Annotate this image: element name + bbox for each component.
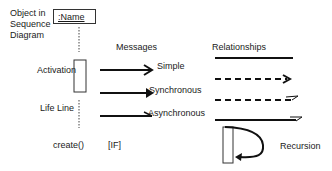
relationship-solid-half-arrow [215,117,302,121]
asynchronous-message-label: Asynchronous [148,108,205,119]
object-label-line3: Diagram [10,30,44,41]
synchronous-message-label: Synchronous [149,85,202,96]
object-label-line1: Object in [10,8,46,19]
relationship-dashed-half-arrow [215,96,298,100]
object-name-box: :Name [53,9,96,24]
activation-label: Activation [37,65,76,76]
simple-message-arrow [100,65,152,75]
recursion-label: Recursion [280,141,321,152]
asynchronous-message-arrow [100,112,152,116]
object-name: :Name [58,12,85,22]
lifeline-label: Life Line [40,103,74,114]
recursion-symbol [223,127,263,163]
relationships-heading: Relationships [212,42,266,53]
create-label: create() [53,140,84,151]
simple-message-label: Simple [157,61,185,72]
relationship-dashed-open-arrow [215,75,290,83]
condition-label: [IF] [108,140,121,151]
object-label-line2: Sequence [10,19,51,30]
messages-heading: Messages [116,42,157,53]
synchronous-message-arrow [100,88,154,98]
